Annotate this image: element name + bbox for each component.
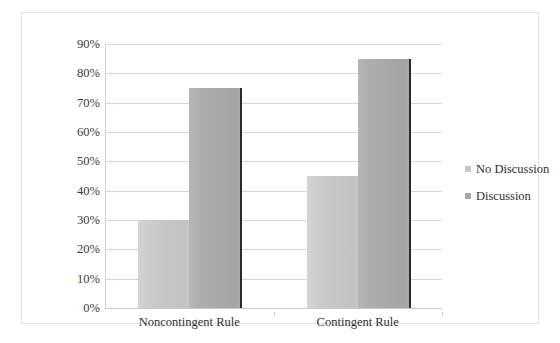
x-axis-tick-mark [442,312,443,316]
bar-side-edge [240,88,242,308]
y-axis-tick-50: 50% [54,155,100,168]
legend-item-no-discussion[interactable]: No Discussion [465,163,555,176]
legend-swatch-icon [465,193,471,199]
y-axis-tick-0: 0% [54,302,100,315]
chart-legend: No DiscussionDiscussion [465,163,555,216]
bar-side-edge [409,59,411,308]
x-axis-label-contingent-rule: Contingent Rule [268,316,448,329]
plot-area [105,44,442,308]
legend-label: No Discussion [476,163,549,176]
x-axis-tick-labels: Noncontingent RuleContingent Rule [105,312,442,336]
bar-noncontingent-rule-no-discussion [138,220,189,308]
y-axis-tick-60: 60% [54,126,100,139]
gridline-90 [105,44,442,45]
bar-contingent-rule-no-discussion [307,176,358,308]
x-axis-label-noncontingent-rule: Noncontingent Rule [99,316,279,329]
y-axis-tick-10: 10% [54,273,100,286]
chart-frame: 90%80%70%60%50%40%30%20%10%0% Nonconting… [21,12,539,324]
bar-noncontingent-rule-discussion [189,88,240,308]
legend-swatch-icon [465,166,471,172]
y-axis-tick-90: 90% [54,38,100,51]
y-axis-tick-40: 40% [54,185,100,198]
y-axis-tick-70: 70% [54,97,100,110]
y-axis-tick-20: 20% [54,243,100,256]
x-axis-tick-mark [274,312,275,316]
y-axis-tick-labels: 90%80%70%60%50%40%30%20%10%0% [48,44,100,308]
gridline-0 [105,308,442,309]
y-axis-tick-80: 80% [54,67,100,80]
y-axis-tick-30: 30% [54,214,100,227]
legend-label: Discussion [476,190,531,203]
bar-contingent-rule-discussion [358,59,409,308]
legend-item-discussion[interactable]: Discussion [465,190,555,203]
